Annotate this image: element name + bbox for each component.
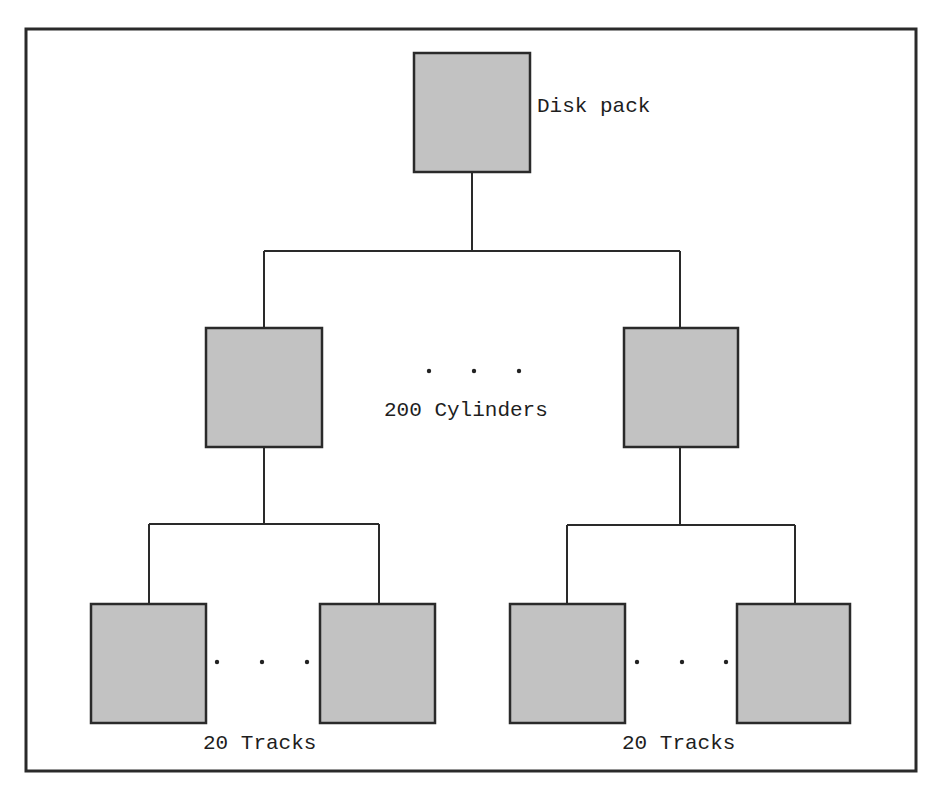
ellipsis-dot bbox=[472, 369, 476, 373]
disk-structure-diagram: Disk pack 200 Cylinders 20 Tracks 20 Tra… bbox=[0, 0, 933, 791]
node-cylinder-last bbox=[624, 328, 738, 447]
node-disk-pack bbox=[414, 53, 530, 172]
ellipsis-dot bbox=[517, 369, 521, 373]
right-cylinder-connector bbox=[567, 447, 795, 604]
node-right-track-first bbox=[510, 604, 625, 723]
left-cylinder-connector bbox=[149, 447, 379, 604]
node-cylinder-first bbox=[206, 328, 322, 447]
label-cylinders: 200 Cylinders bbox=[384, 399, 548, 422]
label-right-tracks: 20 Tracks bbox=[622, 732, 735, 755]
cylinders-ellipsis bbox=[427, 369, 521, 373]
ellipsis-dot bbox=[305, 660, 309, 664]
ellipsis-dot bbox=[724, 660, 728, 664]
node-right-track-last bbox=[737, 604, 850, 723]
ellipsis-dot bbox=[680, 660, 684, 664]
ellipsis-dot bbox=[427, 369, 431, 373]
ellipsis-dot bbox=[260, 660, 264, 664]
right-tracks-ellipsis bbox=[635, 660, 728, 664]
node-left-track-first bbox=[91, 604, 206, 723]
root-connector bbox=[264, 172, 680, 328]
ellipsis-dot bbox=[635, 660, 639, 664]
ellipsis-dot bbox=[215, 660, 219, 664]
label-disk-pack: Disk pack bbox=[537, 95, 650, 118]
label-left-tracks: 20 Tracks bbox=[203, 732, 316, 755]
left-tracks-ellipsis bbox=[215, 660, 309, 664]
node-left-track-last bbox=[320, 604, 435, 723]
